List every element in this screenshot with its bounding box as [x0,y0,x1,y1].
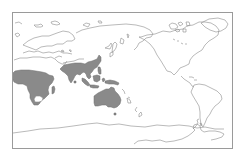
range-australia [94,87,121,108]
range-new-guinea [105,80,119,85]
world-map [13,13,233,149]
distribution-regions [13,55,121,115]
range-madagascar [52,86,55,94]
range-africa [13,70,54,105]
map-frame [12,12,233,149]
